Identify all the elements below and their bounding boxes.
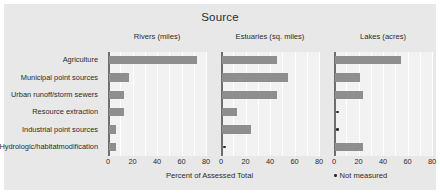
bar-row [221,104,319,121]
bar-row [221,52,319,69]
not-measured-dot-icon [336,111,339,114]
category-label: Industrial point sources [4,121,102,138]
bar-row [221,121,319,138]
category-label: Municipal point sources [4,69,102,86]
plot-panel-estuaries [221,52,319,156]
category-label-line: Urban runoff/ [11,91,54,99]
category-label-line: Hydrologic/habitat [0,143,59,151]
bar-row [334,104,432,121]
category-label-line: storm sewers [54,91,98,99]
category-label-line: Agriculture [63,56,98,64]
category-label: Hydrologic/habitatmodification [4,138,102,155]
bar [222,125,251,133]
legend: Not measured [334,171,387,180]
bar-row [108,69,206,86]
panel-title-lakes: Lakes (acres) [312,32,440,41]
x-axis-ticks-estuaries: 020406080 [221,157,319,168]
chart-title: Source [4,11,436,23]
bar-row [334,52,432,69]
chart-container: Source Rivers (miles)Estuaries (sq. mile… [4,4,436,190]
bar [222,108,237,116]
category-label: Urban runoff/storm sewers [4,87,102,104]
x-axis-tick-label: 80 [202,157,210,166]
gridline [432,52,433,156]
x-axis-tick-label: 60 [290,157,298,166]
bar-row [108,52,206,69]
legend-label: Not measured [340,171,388,180]
bar-row [221,87,319,104]
x-axis-tick-label: 80 [315,157,323,166]
bar [335,143,363,151]
x-axis-tick-label: 0 [106,157,110,166]
bar [109,125,116,133]
bar-row [334,121,432,138]
category-label-line: Industrial point sources [22,126,98,134]
gridline [319,52,320,156]
bar [109,56,197,64]
plot-panel-rivers [108,52,206,156]
plot-area [334,52,432,156]
gridline [206,52,207,156]
bar-row [334,69,432,86]
x-axis-tick-label: 80 [428,157,436,166]
bar [222,91,277,99]
x-axis-tick-label: 60 [177,157,185,166]
bar [335,73,360,81]
x-axis-tick-label: 0 [219,157,223,166]
not-measured-dot-icon [334,174,337,177]
x-axis-tick-label: 40 [266,157,274,166]
x-axis-tick-label: 20 [354,157,362,166]
x-axis-ticks-lakes: 020406080 [334,157,432,168]
x-axis-tick-label: 60 [403,157,411,166]
bar [109,108,124,116]
category-label: Resource extraction [4,104,102,121]
bar [222,73,288,81]
bar-row [334,87,432,104]
plot-panel-lakes [334,52,432,156]
plot-area [221,52,319,156]
bar [109,143,116,151]
x-axis-tick-label: 40 [379,157,387,166]
bar-row [108,87,206,104]
x-axis-ticks-rivers: 020406080 [108,157,206,168]
not-measured-dot-icon [223,146,226,149]
bar-row [108,121,206,138]
x-axis-tick-label: 20 [241,157,249,166]
x-axis-tick-label: 0 [332,157,336,166]
x-axis-tick-label: 40 [153,157,161,166]
category-label: Agriculture [4,52,102,69]
bar-row [108,139,206,156]
x-axis-title: Percent of Assessed Total [102,171,317,180]
bar [109,91,124,99]
bar [335,91,363,99]
bar-row [221,69,319,86]
plot-area [108,52,206,156]
category-label-line: Resource extraction [32,108,98,116]
bar [109,73,129,81]
bar [335,56,401,64]
category-label-line: modification [59,143,98,151]
bar-row [108,104,206,121]
category-label-axis: AgricultureMunicipal point sourcesUrban … [4,52,102,156]
bar-row [334,139,432,156]
category-label-line: Municipal point sources [21,74,98,82]
bar [222,56,277,64]
bar-row [221,139,319,156]
not-measured-dot-icon [336,128,339,131]
x-axis-tick-label: 20 [128,157,136,166]
